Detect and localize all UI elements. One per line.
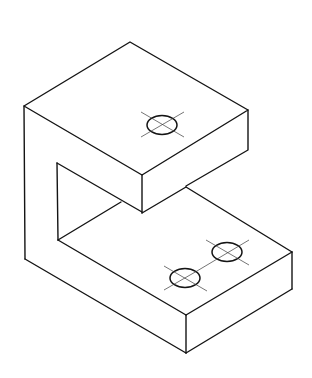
base-top-left-edge	[58, 240, 186, 315]
base-right-bottom-edge	[186, 289, 292, 353]
top-hole	[141, 112, 184, 137]
base-top-rear-edge	[186, 187, 292, 252]
top-arm-top-face	[24, 42, 248, 175]
base-hole-rear	[197, 240, 249, 271]
inner-back-bottom-edge	[58, 202, 121, 240]
top-arm-bottom-edge	[142, 187, 186, 213]
inner-top-edge	[57, 163, 142, 212]
base-bottom-left-edge	[25, 259, 186, 353]
inner-back-vertical	[57, 163, 58, 240]
top-arm-right-face	[186, 110, 248, 186]
back-wall-left-edge	[24, 106, 25, 259]
base-top-front-edge	[186, 252, 292, 315]
isometric-c-bracket-drawing	[0, 0, 312, 378]
base-hole-front	[164, 266, 207, 291]
